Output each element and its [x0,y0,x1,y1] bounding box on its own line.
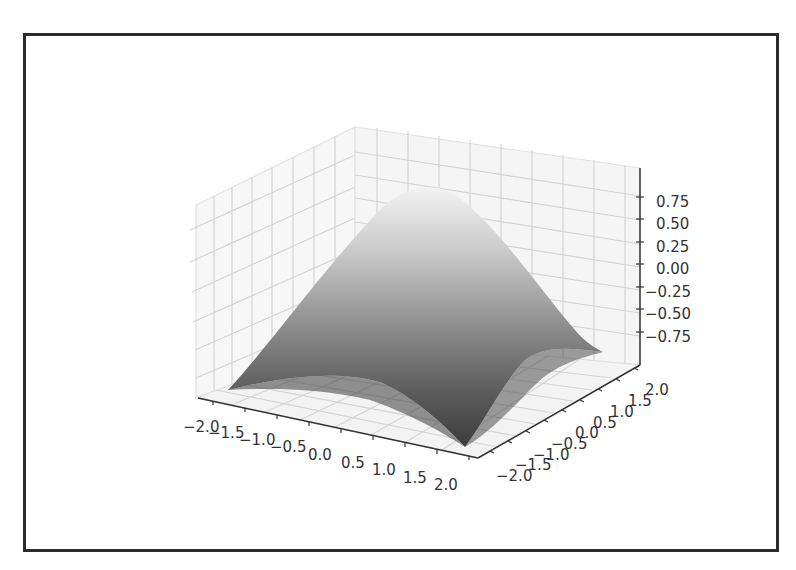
z-tick-label: −0.50 [645,305,691,323]
x-tick-label: −0.5 [270,438,306,456]
z-axis: 0.75 0.50 0.25 0.00 −0.25 −0.50 −0.75 [636,168,691,365]
x-tick-label: 0.0 [308,446,332,464]
z-tick-label: 0.75 [656,193,689,211]
x-tick-label: 2.0 [434,476,458,494]
z-tick-label: 0.50 [656,215,689,233]
z-tick-label: 0.00 [656,260,689,278]
z-tick-label: −0.25 [645,283,691,301]
z-tick-label: −0.75 [645,328,691,346]
x-tick-label: 0.5 [341,454,365,472]
y-tick-label: 2.0 [645,381,669,399]
z-tick-label: 0.25 [656,238,689,256]
surface-plot: −2.0 −1.5 −1.0 −0.5 0.0 0.5 1.0 1.5 2.0 … [0,0,796,570]
x-tick-label: 1.0 [372,461,396,479]
x-tick-label: 1.5 [403,469,427,487]
